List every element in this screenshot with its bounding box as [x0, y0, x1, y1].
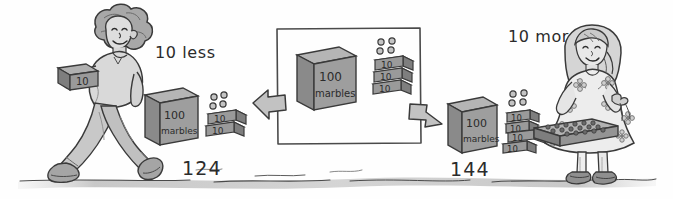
left-cube-bottom-label: marbles [161, 126, 198, 136]
right-cube-top-label: 100 [466, 117, 487, 130]
center-hundred-cube: 100 marbles [297, 47, 356, 110]
math-illustration: 10 10 less 100 marbles 10 [0, 0, 673, 199]
center-ten-rods: 10 10 10 [373, 56, 413, 94]
carried-ten-block: 10 [58, 64, 98, 90]
girl-leg-left [577, 152, 586, 173]
center-ten-rod-label-2: 10 [380, 72, 392, 82]
right-cube-bottom-label: marbles [463, 134, 500, 144]
right-total-number: 144 [450, 158, 490, 180]
left-cube-top-label: 100 [164, 109, 185, 122]
left-hundred-cube: 100 marbles [145, 88, 198, 145]
carried-block-label: 10 [76, 76, 89, 87]
center-ten-rod-label-1: 10 [381, 60, 393, 70]
left-total-number: 124 [182, 157, 222, 179]
center-cube-bottom-label: marbles [315, 88, 355, 99]
right-hundred-cube: 100 marbles [448, 97, 500, 153]
right-ten-rod-label-4: 10 [507, 144, 518, 154]
center-ten-rod-label-3: 10 [379, 84, 391, 94]
left-ten-rod-label-1: 10 [214, 114, 226, 124]
center-cube-top-label: 100 [319, 70, 342, 84]
label-ten-less: 10 less [155, 43, 216, 62]
illustration-canvas: 10 10 less 100 marbles 10 [0, 0, 673, 199]
left-ten-rod-label-2: 10 [212, 126, 224, 136]
girl-leg-right [598, 152, 608, 173]
right-ten-rod-label-1: 10 [511, 113, 522, 123]
